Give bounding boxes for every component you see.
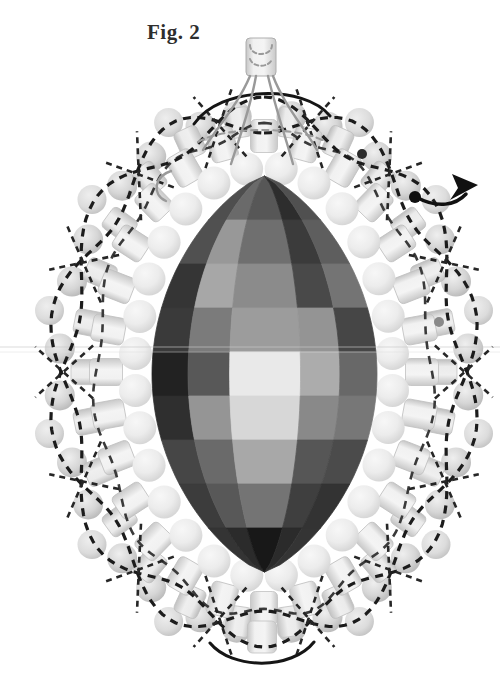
picot-bead [35, 419, 64, 448]
inner-round-bead [197, 167, 230, 200]
cylinder-bead [251, 120, 278, 153]
inner-round-bead [362, 262, 395, 295]
facet-cell [189, 396, 233, 440]
inner-round-bead [376, 337, 409, 370]
facet-cell [298, 396, 340, 440]
inner-round-bead [347, 226, 380, 259]
inner-round-bead [123, 411, 156, 444]
inner-round-bead [133, 263, 166, 296]
inner-round-bead [119, 374, 152, 407]
facet-cell [233, 440, 298, 484]
inner-round-bead [326, 519, 359, 552]
inner-round-bead [119, 337, 152, 370]
picot-bead [464, 419, 493, 448]
beadwork-diagram [0, 0, 500, 678]
inner-round-bead [372, 300, 405, 333]
thread-anchor-dot [434, 317, 444, 327]
facet-cell [153, 308, 195, 352]
inner-round-bead [169, 192, 202, 225]
facet-cell [153, 396, 195, 440]
render-root [0, 38, 500, 663]
diagram-canvas: Fig. 2 [0, 0, 500, 678]
inner-round-bead [372, 411, 405, 444]
cylinder-bead [401, 313, 438, 346]
inner-round-bead [198, 545, 231, 578]
inner-round-bead [123, 300, 156, 333]
figure-label: Fig. 2 [147, 20, 200, 45]
facet-cell [152, 352, 189, 396]
inner-round-bead [148, 226, 181, 259]
inner-round-bead [376, 374, 409, 407]
facet-cell [233, 264, 298, 308]
cylinder-bead [401, 398, 438, 431]
inner-round-bead [148, 485, 181, 518]
facet-cell [230, 308, 300, 352]
cylinder-bead [90, 359, 123, 386]
top-loop-bead [246, 38, 276, 76]
picot-bead [78, 185, 107, 214]
facet-cell [230, 352, 301, 396]
inner-round-bead [363, 449, 396, 482]
inner-round-bead [326, 192, 359, 225]
picot-bead [464, 296, 493, 325]
inner-round-bead [133, 449, 166, 482]
thread-anchor-dot [357, 149, 367, 159]
picot-bead [35, 296, 64, 325]
facet-cell [189, 308, 233, 352]
facet-cell [300, 352, 340, 396]
picot-bead [422, 530, 451, 559]
inner-round-bead [169, 519, 202, 552]
facet-cell [298, 308, 340, 352]
central-faceted-bead [152, 176, 377, 572]
inner-round-bead [347, 485, 380, 518]
facet-cell [334, 396, 377, 440]
facet-cell [334, 308, 377, 352]
facet-cell [230, 396, 300, 440]
facet-cell [339, 352, 377, 396]
thread-anchor-dot [409, 191, 421, 203]
cylinder-bead [406, 359, 439, 386]
inner-round-bead [298, 167, 331, 200]
inner-round-bead [298, 544, 331, 577]
cylinder-bead [90, 313, 127, 346]
facet-cell [188, 352, 230, 396]
